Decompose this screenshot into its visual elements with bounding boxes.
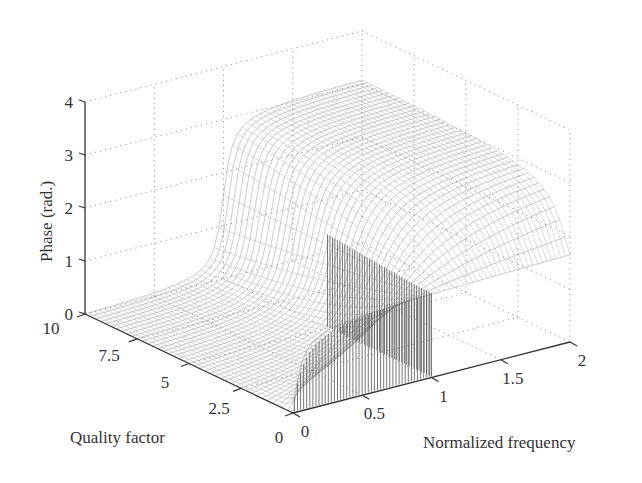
- tick-label: 7.5: [98, 346, 119, 365]
- tick-labels: 0123402.557.51000.511.52: [43, 93, 587, 447]
- tick-label: 0: [301, 422, 310, 441]
- surface-plot: 0123402.557.51000.511.52 Phase (rad.) Qu…: [0, 0, 642, 483]
- tick-label: 2: [65, 199, 74, 218]
- phase-surface: [85, 80, 570, 413]
- tick-label: 0: [65, 305, 74, 324]
- tick-label: 4: [65, 93, 74, 112]
- tick-label: 5: [161, 373, 170, 392]
- tick-label: 2: [578, 351, 587, 370]
- tick-label: 1.5: [502, 369, 523, 388]
- tick-label: 0: [275, 428, 284, 447]
- tick-label: 1: [65, 252, 74, 271]
- tick-label: 1: [439, 387, 448, 406]
- tick-label: 2.5: [208, 399, 229, 418]
- tick-label: 0.5: [364, 404, 385, 423]
- z-axis-label: Phase (rad.): [37, 181, 56, 262]
- tick-label: 3: [65, 146, 74, 165]
- x-axis-label: Normalized frequency: [423, 433, 576, 452]
- y-axis-label: Quality factor: [70, 428, 165, 447]
- tick-label: 10: [43, 319, 60, 338]
